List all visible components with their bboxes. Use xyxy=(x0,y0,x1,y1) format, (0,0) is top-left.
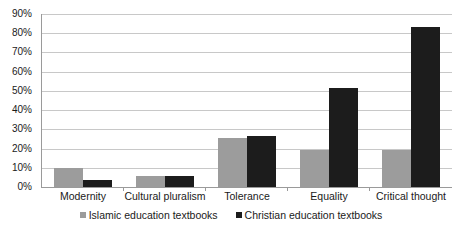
bar[interactable] xyxy=(83,180,112,187)
bar[interactable] xyxy=(136,176,165,187)
bar-group xyxy=(42,14,124,187)
legend-item[interactable]: Islamic education textbooks xyxy=(80,209,218,221)
bar[interactable] xyxy=(247,136,276,187)
legend-label: Christian education textbooks xyxy=(245,209,383,221)
y-axis-labels: 90%80%70%60%50%40%30%20%10%0% xyxy=(0,14,38,187)
bar-group xyxy=(206,14,288,187)
bar-group xyxy=(288,14,370,187)
x-axis-category-label: Tolerance xyxy=(206,190,288,204)
y-axis-tick-label: 0% xyxy=(18,182,32,192)
bar-group xyxy=(124,14,206,187)
chart-legend: Islamic education textbooksChristian edu… xyxy=(0,207,462,223)
x-axis-category-label: Critical thought xyxy=(370,190,452,204)
bar[interactable] xyxy=(300,150,329,187)
y-axis-tick-label: 50% xyxy=(12,86,32,96)
y-axis-tick-label: 30% xyxy=(12,124,32,134)
y-axis-tick-label: 10% xyxy=(12,163,32,173)
legend-swatch-icon xyxy=(236,212,242,218)
bar[interactable] xyxy=(411,27,440,187)
bar[interactable] xyxy=(329,88,358,187)
y-axis-tick-label: 70% xyxy=(12,47,32,57)
x-axis-category-label: Cultural pluralism xyxy=(124,190,206,204)
bar-group xyxy=(370,14,452,187)
x-axis-category-label: Modernity xyxy=(42,190,124,204)
x-axis-line xyxy=(41,187,452,188)
bar-chart: 90%80%70%60%50%40%30%20%10%0% ModernityC… xyxy=(0,0,462,233)
legend-item[interactable]: Christian education textbooks xyxy=(236,209,383,221)
legend-label: Islamic education textbooks xyxy=(89,209,218,221)
bar[interactable] xyxy=(218,138,247,187)
bar[interactable] xyxy=(382,150,411,187)
bar[interactable] xyxy=(165,176,194,187)
y-axis-tick-label: 20% xyxy=(12,144,32,154)
x-axis-category-labels: ModernityCultural pluralismToleranceEqua… xyxy=(42,190,452,204)
bar-groups xyxy=(42,14,452,187)
legend-swatch-icon xyxy=(80,212,86,218)
plot-area xyxy=(41,14,452,187)
x-axis-category-label: Equality xyxy=(288,190,370,204)
bar[interactable] xyxy=(54,168,83,187)
y-axis-tick-label: 40% xyxy=(12,105,32,115)
y-axis-tick-label: 80% xyxy=(12,28,32,38)
y-axis-tick-label: 60% xyxy=(12,67,32,77)
y-axis-tick-label: 90% xyxy=(12,9,32,19)
